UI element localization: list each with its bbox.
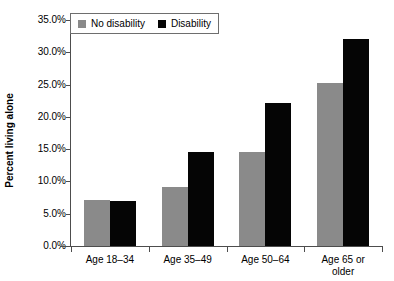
legend-entry-no-disability: No disability <box>78 18 145 29</box>
bar-group <box>84 20 136 246</box>
bar-chart: Percent living alone 0.0%5.0%10.0%15.0%2… <box>0 0 394 281</box>
bar-no-disability <box>84 200 110 246</box>
legend-swatch-icon-disability <box>158 20 166 28</box>
x-axis-tick-mark <box>304 247 305 252</box>
bar-no-disability <box>239 152 265 246</box>
x-axis-tick-mark <box>227 247 228 252</box>
bar-group <box>317 20 369 246</box>
bar-disability <box>110 201 136 246</box>
bar-disability <box>265 103 291 246</box>
bar-group <box>239 20 291 246</box>
y-axis-tick-label: 30.0% <box>20 47 66 57</box>
x-axis-tick-mark <box>71 247 72 252</box>
legend-label-disability: Disability <box>171 18 211 29</box>
bar-disability <box>188 152 214 246</box>
bar-group <box>162 20 214 246</box>
y-axis-tick-label: 15.0% <box>20 144 66 154</box>
x-axis-line <box>60 246 383 247</box>
chart-legend: No disability Disability <box>70 13 219 34</box>
bar-no-disability <box>162 187 188 246</box>
y-axis-tick-label: 25.0% <box>20 80 66 90</box>
plot-area <box>71 20 382 246</box>
bar-disability <box>343 39 369 246</box>
y-axis-tick-label: 20.0% <box>20 112 66 122</box>
bar-no-disability <box>317 83 343 246</box>
y-axis-tick-label: 10.0% <box>20 176 66 186</box>
x-axis-tick-mark <box>382 247 383 252</box>
legend-entry-disability: Disability <box>158 18 211 29</box>
y-axis-title: Percent living alone <box>2 0 18 281</box>
legend-swatch-icon-no-disability <box>78 20 86 28</box>
x-axis-tick-mark <box>149 247 150 252</box>
x-axis-category-label: Age 65 orolder <box>295 254 391 278</box>
y-axis-tick-label: 5.0% <box>20 209 66 219</box>
legend-label-no-disability: No disability <box>91 18 145 29</box>
y-axis-tick-label: 35.0% <box>20 15 66 25</box>
